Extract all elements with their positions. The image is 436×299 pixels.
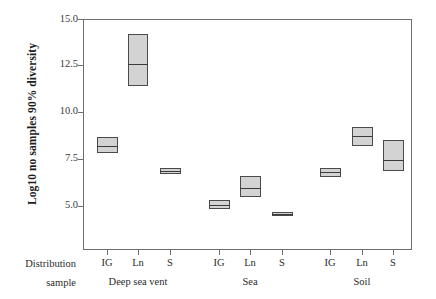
x-group-label-soil: Soil <box>337 277 387 288</box>
median-line <box>128 64 148 65</box>
box-deep-sea-vent-ln <box>128 34 148 86</box>
y-tick-label: 15.0 <box>44 14 78 25</box>
x-tick-mark <box>107 250 108 255</box>
y-tick-label: 5.0 <box>44 200 78 211</box>
median-line <box>352 136 373 137</box>
x-tick-mark <box>138 250 139 255</box>
median-line <box>240 188 261 189</box>
x-tick-mark <box>393 250 394 255</box>
x-category-label-soil-s: S <box>378 258 408 269</box>
x-axis-caption-line1: Distribution <box>2 257 76 270</box>
median-line <box>97 146 118 147</box>
median-line <box>160 171 181 172</box>
x-group-label-deep-sea-vent: Deep sea vent <box>98 277 178 288</box>
box-soil-s <box>383 140 404 171</box>
box-sea-ln <box>240 176 261 197</box>
x-category-label-dsv-ln: Ln <box>123 258 153 269</box>
x-category-label-sea-s: S <box>267 258 297 269</box>
median-line <box>209 205 230 206</box>
x-tick-mark <box>282 250 283 255</box>
x-tick-mark <box>362 250 363 255</box>
x-tick-mark <box>170 250 171 255</box>
x-category-label-sea-ig: IG <box>204 258 234 269</box>
median-line <box>320 172 341 173</box>
x-category-label-dsv-ig: IG <box>92 258 122 269</box>
median-line <box>383 160 404 161</box>
x-category-label-soil-ln: Ln <box>347 258 377 269</box>
y-tick-label: 7.5 <box>44 153 78 164</box>
x-tick-mark <box>219 250 220 255</box>
x-tick-mark <box>330 250 331 255</box>
y-axis-title: Log10 no samples 90% diversity <box>26 24 38 224</box>
x-group-label-sea: Sea <box>225 277 275 288</box>
x-category-label-dsv-s: S <box>155 258 185 269</box>
x-category-label-sea-ln: Ln <box>235 258 265 269</box>
figure: Log10 no samples 90% diversity 15.0 12.5… <box>0 0 436 299</box>
median-line <box>272 214 293 215</box>
x-axis-caption-line2: sample <box>2 276 76 289</box>
y-tick-label: 12.5 <box>44 59 78 70</box>
x-tick-mark <box>250 250 251 255</box>
y-tick-label: 10.0 <box>44 106 78 117</box>
y-axis-tick-labels: 15.0 12.5 10.0 7.5 5.0 <box>44 0 78 299</box>
x-category-label-soil-ig: IG <box>315 258 345 269</box>
